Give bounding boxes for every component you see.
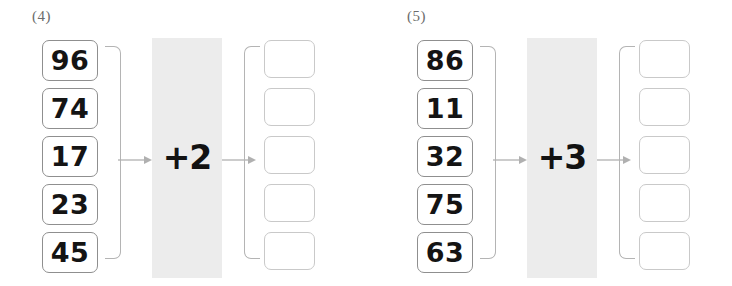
input-number-box: 74 — [42, 88, 98, 129]
problem-label: (4) — [32, 8, 51, 25]
arrow-right-icon — [118, 152, 152, 168]
input-number-box: 17 — [42, 136, 98, 177]
answer-box[interactable] — [639, 232, 690, 270]
answer-box[interactable] — [639, 136, 690, 174]
answer-grouping-bracket — [244, 46, 260, 259]
operator-band: +3 — [527, 38, 597, 278]
operator-label: +2 — [163, 141, 212, 174]
operator-label: +3 — [538, 141, 587, 174]
input-number-box: 75 — [417, 184, 473, 225]
answer-box[interactable] — [264, 40, 315, 78]
worksheet-page: (4) 96 74 17 23 45 +2 — [0, 0, 732, 286]
answer-box[interactable] — [639, 184, 690, 222]
input-number-box: 11 — [417, 88, 473, 129]
operator-band: +2 — [152, 38, 222, 278]
input-number-box: 45 — [42, 232, 98, 273]
problem-group-1: (4) 96 74 17 23 45 +2 — [0, 0, 366, 286]
arrow-right-icon — [493, 152, 527, 168]
answer-box[interactable] — [639, 40, 690, 78]
answer-grouping-bracket — [619, 46, 635, 259]
answer-box[interactable] — [264, 136, 315, 174]
input-number-box: 86 — [417, 40, 473, 81]
input-number-box: 63 — [417, 232, 473, 273]
answer-box[interactable] — [639, 88, 690, 126]
problem-label: (5) — [407, 8, 426, 25]
input-number-box: 23 — [42, 184, 98, 225]
answer-box[interactable] — [264, 88, 315, 126]
input-number-box: 96 — [42, 40, 98, 81]
problem-group-2: (5) 86 11 32 75 63 +3 — [375, 0, 732, 286]
answer-box[interactable] — [264, 232, 315, 270]
answer-box[interactable] — [264, 184, 315, 222]
input-number-box: 32 — [417, 136, 473, 177]
